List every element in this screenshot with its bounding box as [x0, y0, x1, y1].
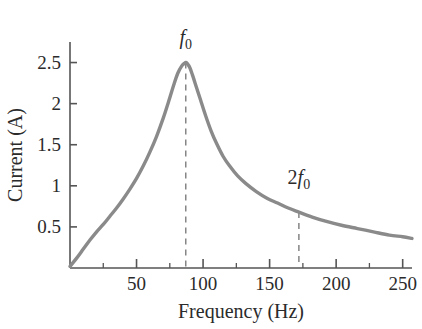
- annotation-prefix: 2: [288, 166, 298, 188]
- x-tick-label-100: 100: [189, 273, 218, 294]
- y-axis-title: Current (A): [4, 108, 27, 202]
- annotation-subscript: 0: [303, 177, 310, 192]
- y-tick-label-0.5: 0.5: [37, 216, 61, 237]
- axis-lines: [70, 42, 412, 268]
- annotation-subscript: 0: [185, 37, 192, 52]
- annotation-label-2f0: 2f0: [288, 166, 311, 192]
- x-axis-tick-labels: 50100150200250: [127, 273, 417, 294]
- annotation-label-f0: f0: [179, 26, 192, 52]
- y-axis-ticks: [70, 63, 77, 227]
- x-axis-title: Frequency (Hz): [178, 300, 304, 323]
- x-axis-ticks: [137, 259, 403, 268]
- y-tick-label-1.5: 1.5: [37, 134, 61, 155]
- x-tick-label-200: 200: [322, 273, 351, 294]
- chart-canvas: 0.511.522.5 50100150200250 f02f0 Frequen…: [0, 0, 422, 329]
- y-tick-label-2: 2: [52, 93, 62, 114]
- y-tick-label-2.5: 2.5: [37, 52, 61, 73]
- resonance-curve: [70, 63, 412, 267]
- y-tick-label-1: 1: [52, 175, 62, 196]
- annotation-lines: [186, 63, 299, 268]
- annotation-labels: f02f0: [179, 26, 310, 192]
- x-tick-label-250: 250: [388, 273, 417, 294]
- y-axis-tick-labels: 0.511.522.5: [37, 52, 61, 237]
- x-tick-label-150: 150: [255, 273, 284, 294]
- resonance-chart: 0.511.522.5 50100150200250 f02f0 Frequen…: [0, 0, 422, 329]
- x-tick-label-50: 50: [127, 273, 146, 294]
